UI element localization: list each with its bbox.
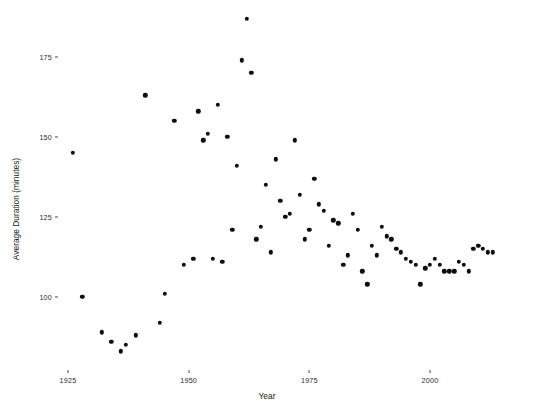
y-tick-mark xyxy=(55,57,58,58)
data-point xyxy=(394,247,398,251)
data-point xyxy=(230,228,234,232)
data-point xyxy=(302,237,306,241)
data-point xyxy=(428,263,432,267)
data-point xyxy=(196,109,200,113)
data-point xyxy=(418,282,422,286)
x-tick-mark xyxy=(309,370,310,373)
data-point xyxy=(399,250,403,254)
data-point xyxy=(471,247,475,251)
data-point xyxy=(143,93,147,97)
data-point xyxy=(172,119,176,123)
data-point xyxy=(254,237,258,241)
data-point xyxy=(351,212,355,216)
data-point xyxy=(331,218,335,222)
x-tick-mark xyxy=(68,370,69,373)
data-point xyxy=(355,228,359,232)
data-point xyxy=(133,333,137,337)
y-tick-label: 175 xyxy=(30,53,52,62)
y-tick-mark xyxy=(55,217,58,218)
data-point xyxy=(437,263,441,267)
data-point xyxy=(423,266,427,270)
x-tick-mark xyxy=(430,370,431,373)
data-point xyxy=(162,292,166,296)
y-tick-label: 150 xyxy=(30,133,52,142)
data-point xyxy=(119,349,123,353)
data-point xyxy=(201,138,205,142)
data-point xyxy=(124,343,128,347)
data-point xyxy=(191,256,195,260)
data-point xyxy=(481,247,485,251)
data-point xyxy=(346,253,350,257)
x-tick-label: 1925 xyxy=(60,376,77,385)
data-point xyxy=(80,295,84,299)
data-point xyxy=(182,263,186,267)
data-point xyxy=(491,250,495,254)
y-tick-label: 125 xyxy=(30,213,52,222)
data-point xyxy=(336,221,340,225)
data-point xyxy=(278,199,282,203)
y-axis-title: Average Duration (minutes) xyxy=(11,158,21,260)
data-point xyxy=(283,215,287,219)
data-point xyxy=(375,253,379,257)
data-point xyxy=(413,263,417,267)
data-point xyxy=(408,260,412,264)
y-tick-label: 100 xyxy=(30,293,52,302)
data-point xyxy=(235,164,239,168)
data-point xyxy=(360,269,364,273)
data-point xyxy=(322,208,326,212)
data-point xyxy=(249,71,253,75)
data-point xyxy=(442,269,446,273)
y-tick-mark xyxy=(55,297,58,298)
x-axis-title: Year xyxy=(259,391,276,401)
data-point xyxy=(206,132,210,136)
data-point xyxy=(326,244,330,248)
data-point xyxy=(109,340,113,344)
data-point xyxy=(158,320,162,324)
data-point xyxy=(317,202,321,206)
data-point xyxy=(307,228,311,232)
data-point xyxy=(220,260,224,264)
data-point xyxy=(225,135,229,139)
x-tick-mark xyxy=(188,370,189,373)
data-point xyxy=(211,256,215,260)
data-point xyxy=(452,269,456,273)
y-tick-mark xyxy=(55,137,58,138)
data-point xyxy=(273,157,277,161)
scatter-plot-figure: 100125150175 1925195019752000 Average Du… xyxy=(0,0,534,418)
data-point xyxy=(384,234,388,238)
x-tick-label: 1975 xyxy=(301,376,318,385)
x-tick-label: 2000 xyxy=(422,376,439,385)
data-point xyxy=(466,269,470,273)
plot-data-area xyxy=(0,0,534,418)
data-point xyxy=(476,244,480,248)
data-point xyxy=(259,224,263,228)
data-point xyxy=(71,151,75,155)
data-point xyxy=(370,244,374,248)
data-point xyxy=(264,183,268,187)
x-tick-label: 1950 xyxy=(180,376,197,385)
data-point xyxy=(341,263,345,267)
data-point xyxy=(457,260,461,264)
data-point xyxy=(433,256,437,260)
data-point xyxy=(486,250,490,254)
data-point xyxy=(240,58,244,62)
data-point xyxy=(215,103,219,107)
data-point xyxy=(447,269,451,273)
data-point xyxy=(269,250,273,254)
data-point xyxy=(288,212,292,216)
data-point xyxy=(462,263,466,267)
data-point xyxy=(293,138,297,142)
data-point xyxy=(365,282,369,286)
data-point xyxy=(312,176,316,180)
data-point xyxy=(380,224,384,228)
data-point xyxy=(100,330,104,334)
data-point xyxy=(389,237,393,241)
data-point xyxy=(297,192,301,196)
data-point xyxy=(244,16,248,20)
data-point xyxy=(404,256,408,260)
